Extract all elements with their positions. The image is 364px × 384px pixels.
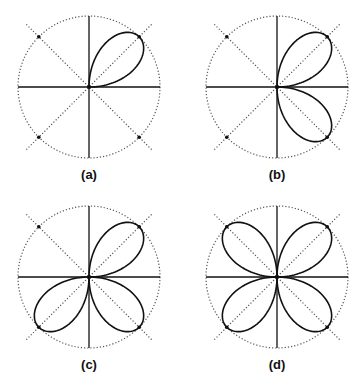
origin-dot-b	[275, 85, 279, 89]
intersection-dot-d	[325, 225, 329, 229]
intersection-dot-c	[37, 325, 41, 329]
intersection-dot-a	[137, 35, 141, 39]
intersection-dot-c	[37, 225, 41, 229]
panel-label-a: (a)	[81, 167, 97, 182]
intersection-dot-c	[137, 325, 141, 329]
intersection-dot-b	[225, 35, 229, 39]
panel-label-b: (b)	[269, 167, 286, 182]
intersection-dot-b	[325, 35, 329, 39]
intersection-dot-d	[225, 225, 229, 229]
intersection-dot-d	[325, 325, 329, 329]
origin-dot-c	[87, 275, 91, 279]
intersection-dot-b	[325, 135, 329, 139]
origin-dot-d	[275, 275, 279, 279]
intersection-dot-c	[137, 225, 141, 229]
origin-dot-a	[87, 85, 91, 89]
intersection-dot-b	[225, 135, 229, 139]
rose-curve-figure	[0, 0, 364, 384]
intersection-dot-a	[137, 135, 141, 139]
panel-label-c: (c)	[81, 357, 97, 372]
intersection-dot-a	[37, 35, 41, 39]
panel-label-d: (d)	[269, 357, 286, 372]
intersection-dot-a	[37, 135, 41, 139]
intersection-dot-d	[225, 325, 229, 329]
